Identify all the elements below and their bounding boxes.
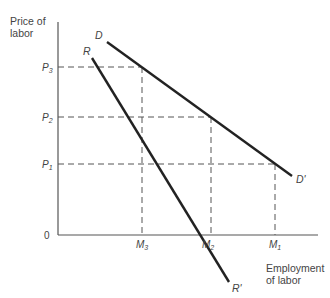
tick-m2: M2 xyxy=(202,239,214,251)
tick-m1: M1 xyxy=(269,239,281,251)
label-r: R xyxy=(83,45,91,57)
tick-p1: P1 xyxy=(42,159,53,171)
label-d: D xyxy=(95,29,103,41)
y-axis-label: Price of labor xyxy=(10,15,49,39)
x-axis-label: Employment of labor xyxy=(266,262,327,286)
origin-label: 0 xyxy=(44,230,50,241)
tick-p2: P2 xyxy=(42,112,53,124)
label-r-prime: R' xyxy=(232,282,243,294)
label-d-prime: D' xyxy=(296,173,307,185)
demand-line xyxy=(107,42,292,176)
tick-p3: P3 xyxy=(42,62,53,74)
chart: Price of labor Employment of labor 0 P3 … xyxy=(0,0,330,298)
tick-m3: M3 xyxy=(136,239,148,251)
guides xyxy=(58,67,275,235)
